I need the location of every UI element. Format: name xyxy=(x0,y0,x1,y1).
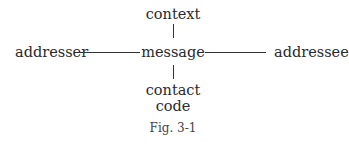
node-message: message xyxy=(141,45,205,60)
edge-message-addressee xyxy=(205,52,266,53)
edge-message-contact xyxy=(173,65,174,79)
node-contact: contact xyxy=(146,83,201,98)
node-context: context xyxy=(146,7,201,22)
edge-addresser-message xyxy=(79,52,140,53)
figure-caption: Fig. 3-1 xyxy=(150,122,197,134)
edge-context-message xyxy=(173,24,174,38)
node-code: code xyxy=(156,99,191,114)
node-addresser: addresser xyxy=(15,45,88,60)
node-addressee: addressee xyxy=(274,45,349,60)
